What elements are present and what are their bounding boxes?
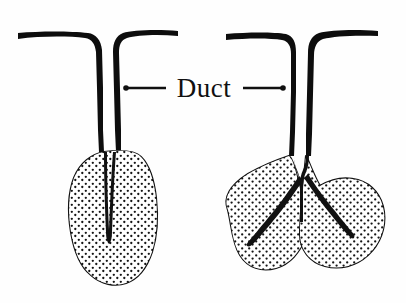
stipple-fill-lobe-left [218,150,314,276]
duct-label-text: Duct [177,73,231,103]
diagram-canvas: Duct [0,0,406,303]
duct-right-wall-branched [306,30,378,156]
stipple-fill-lobe-right [296,150,392,276]
duct-label-group: Duct [123,73,286,103]
duct-left-wall-simple [18,32,104,153]
duct-right-wall-simple [113,30,178,152]
gland-duct-diagram: Duct [0,0,406,303]
branched-gland-group [218,30,392,276]
leader-dot-left [123,85,129,91]
leader-dot-right [280,85,286,91]
simple-gland-group [18,30,178,292]
duct-left-wall-branched [226,33,296,157]
